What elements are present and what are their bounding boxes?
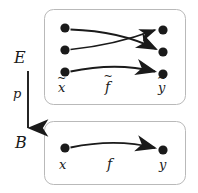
lower-source-label-x: x [59, 158, 66, 171]
lower-map-label-f: f [107, 157, 112, 171]
base-space-label-B: B [15, 135, 27, 151]
upper-map-label-f-tilde: ~ f [105, 80, 110, 94]
upper-left-dot-1 [60, 23, 69, 32]
upper-left-dot-2 [60, 45, 69, 54]
upper-right-dot-1 [158, 25, 167, 34]
lower-left-dot [60, 143, 69, 152]
diagram-vector-layer [0, 0, 198, 193]
upper-right-dot-2 [158, 47, 167, 56]
tilde-accent-icon: ~ [103, 71, 112, 82]
upper-source-label-x-tilde: ~ x [58, 81, 65, 94]
tilde-accent-icon: ~ [157, 73, 166, 84]
projection-map-label-p: p [13, 87, 21, 100]
total-space-label-E: E [14, 50, 26, 66]
diagram-canvas: E p B ~ x ~ f ~ y x f y [0, 0, 198, 193]
lower-target-label-y: y [159, 158, 166, 171]
lower-right-dot [158, 145, 167, 154]
upper-target-label-y-tilde: ~ y [158, 81, 165, 94]
tilde-accent-icon: ~ [57, 73, 66, 84]
